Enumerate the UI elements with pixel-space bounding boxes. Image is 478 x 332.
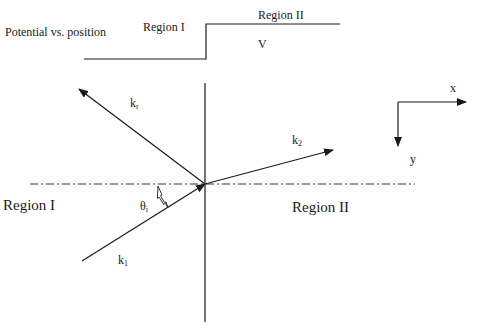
- x-axis-label: x: [450, 82, 456, 94]
- y-axis-label: y: [410, 153, 416, 165]
- angle-double-arrow-icon: [157, 186, 168, 208]
- potential-step-curve: [84, 24, 340, 59]
- potential-v-label: V: [258, 38, 267, 50]
- potential-region1-label: Region I: [143, 21, 185, 33]
- potential-plot-title: Potential vs. position: [5, 26, 106, 38]
- region-right-label: Region II: [292, 200, 349, 215]
- incident-vector-subscript: 1: [124, 259, 128, 268]
- incident-wave-arrow: [82, 184, 205, 261]
- transmitted-wave-arrow: [205, 150, 333, 184]
- incident-vector-label: k1: [118, 254, 128, 268]
- region-left-label: Region I: [3, 198, 55, 213]
- diagram-canvas: [0, 0, 478, 332]
- coordinate-axes: [398, 102, 466, 146]
- potential-region2-label: Region II: [258, 9, 304, 21]
- incident-angle-label: θi: [140, 200, 148, 214]
- reflected-wave-arrow: [79, 89, 205, 184]
- transmitted-vector-subscript: 2: [298, 139, 302, 148]
- reflected-vector-label: kr: [130, 97, 139, 111]
- transmitted-vector-label: k2: [292, 134, 302, 148]
- angle-subscript: i: [146, 205, 148, 214]
- reflected-vector-subscript: r: [136, 102, 139, 111]
